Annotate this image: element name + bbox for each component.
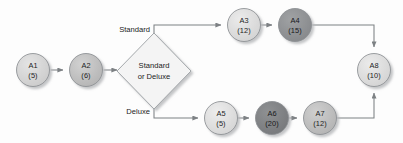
decision-node-standard-or-deluxe[interactable]: Standard or Deluxe (117, 33, 191, 109)
node-a6[interactable]: A6 (20) (256, 102, 289, 135)
node-a2-name: A2 (81, 61, 90, 70)
node-a3[interactable]: A3 (12) (228, 9, 261, 42)
connector-decision-to-a5-deluxe (154, 104, 198, 118)
node-a7[interactable]: A7 (12) (304, 102, 337, 135)
branch-label-standard: Standard (119, 25, 150, 34)
node-a6-duration: (20) (265, 119, 279, 128)
node-a2[interactable]: A2 (6) (70, 54, 103, 87)
node-a7-duration: (12) (313, 119, 327, 128)
node-a4-duration: (15) (288, 26, 302, 35)
node-a1-duration: (5) (28, 71, 37, 80)
node-a8-duration: (10) (367, 71, 381, 80)
decision-label-line1: Standard (139, 61, 170, 70)
node-a8[interactable]: A8 (10) (358, 54, 391, 87)
node-a1-name: A1 (28, 61, 37, 70)
connector-a7-to-a8 (337, 93, 374, 118)
decision-label-line2: or Deluxe (138, 72, 171, 81)
node-a5-duration: (5) (216, 119, 225, 128)
node-a3-name: A3 (239, 16, 248, 25)
node-a8-name: A8 (369, 61, 378, 70)
process-flow-diagram: Standard or Deluxe Standard Deluxe A1 (5… (0, 0, 403, 143)
connector-a4-to-a8 (312, 25, 374, 47)
node-a5[interactable]: A5 (5) (205, 102, 238, 135)
node-a5-name: A5 (216, 109, 225, 118)
node-a2-duration: (6) (81, 71, 90, 80)
node-a3-duration: (12) (237, 26, 251, 35)
branch-label-deluxe: Deluxe (126, 107, 150, 116)
flow-canvas: Standard or Deluxe Standard Deluxe A1 (5… (0, 0, 403, 143)
node-a7-name: A7 (315, 109, 324, 118)
node-a4-name: A4 (290, 16, 299, 25)
node-a6-name: A6 (267, 109, 276, 118)
node-a1[interactable]: A1 (5) (17, 54, 50, 87)
decision-diamond-shape (117, 33, 191, 109)
node-a4[interactable]: A4 (15) (279, 9, 312, 42)
connector-decision-to-a3-standard (154, 25, 221, 38)
